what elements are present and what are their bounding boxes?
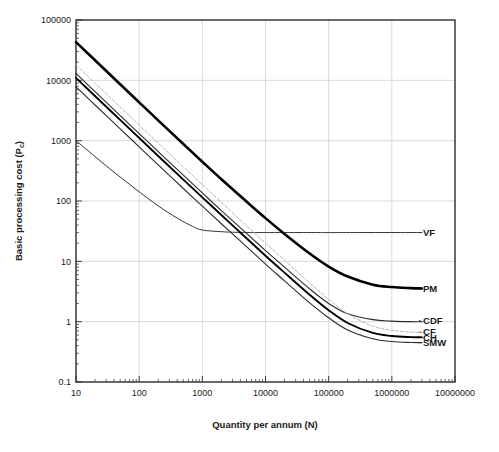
y-tick-label: 10000 — [46, 76, 71, 86]
series-label-cdf: CDF — [423, 315, 443, 326]
y-tick-label: 1000 — [51, 136, 71, 146]
x-axis-title: Quantity per annum (N) — [212, 419, 318, 430]
y-tick-label: 0.1 — [58, 377, 71, 387]
x-tick-label: 10 — [71, 388, 81, 398]
series-label-smw: SMW — [423, 337, 446, 348]
series-label-vf: VF — [423, 227, 435, 238]
log-log-cost-chart: 10100100010000100000100000010000000 0.11… — [0, 0, 499, 452]
figure-container: 10100100010000100000100000010000000 0.11… — [0, 0, 499, 452]
y-tick-label: 1 — [66, 317, 71, 327]
x-tick-label: 1000000 — [374, 388, 409, 398]
y-tick-label: 100 — [56, 196, 71, 206]
x-tick-label: 10000000 — [435, 388, 475, 398]
y-axis-title: Basic processing cost (Pc) — [13, 141, 25, 261]
y-tick-labels: 0.1110100100010000100000 — [41, 15, 71, 387]
x-tick-label: 100000 — [314, 388, 344, 398]
y-axis-title-group: Basic processing cost (Pc) — [13, 141, 25, 261]
x-tick-label: 10000 — [253, 388, 278, 398]
x-tick-label: 100 — [132, 388, 147, 398]
x-tick-labels: 10100100010000100000100000010000000 — [71, 388, 475, 398]
y-tick-label: 100000 — [41, 15, 71, 25]
series-label-pm: PM — [423, 283, 437, 294]
x-tick-label: 1000 — [192, 388, 212, 398]
y-tick-label: 10 — [61, 257, 71, 267]
